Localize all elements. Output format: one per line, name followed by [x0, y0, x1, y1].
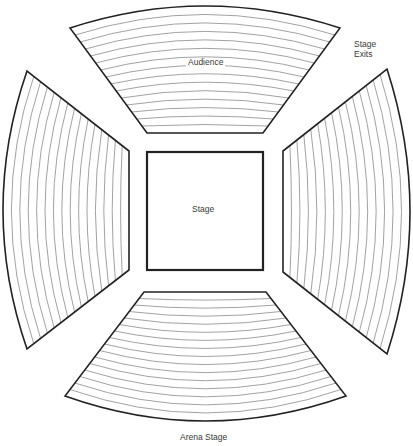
seat-row: [104, 135, 109, 286]
seat-row: [137, 116, 274, 119]
seat-row: [116, 82, 294, 91]
seat-row: [318, 124, 326, 300]
seat-row: [121, 91, 288, 98]
seat-row: [95, 130, 101, 291]
seating-left: [3, 71, 129, 349]
seat-row: [105, 344, 307, 357]
stage-exits-label: Stage Exits: [354, 40, 376, 60]
seat-row: [142, 125, 268, 126]
seat-row: [297, 140, 300, 283]
seat-row: [121, 146, 123, 276]
seat-row: [380, 74, 401, 348]
seat-row: [126, 99, 283, 105]
seat-row: [109, 338, 301, 349]
seat-row: [70, 114, 81, 307]
seat-row: [20, 82, 41, 339]
section-outline: [3, 71, 129, 349]
seat-row: [345, 102, 359, 321]
seat-row: [290, 146, 292, 278]
audience-label: Audience: [186, 58, 225, 68]
stage-exits-line2: Exits: [354, 50, 376, 60]
seat-row: [129, 312, 281, 317]
section-outline: [283, 69, 410, 354]
seat-row: [119, 325, 291, 333]
seat-row: [124, 318, 286, 324]
seat-row: [53, 103, 67, 317]
seat-row: [366, 85, 384, 337]
seating-bottom: [65, 292, 346, 421]
seat-row: [87, 124, 95, 296]
seat-row: [311, 129, 317, 294]
seat-row: [90, 364, 321, 381]
diagram-caption: Arena Stage: [180, 433, 227, 443]
seat-row: [112, 140, 115, 280]
seat-row: [338, 107, 350, 315]
seat-row: [28, 87, 47, 333]
seat-row: [132, 108, 279, 112]
seating-right: [283, 69, 410, 354]
seat-row: [80, 23, 329, 42]
seat-row: [62, 108, 75, 312]
seat-row: [304, 135, 309, 289]
seat-row: [134, 305, 276, 308]
stage-label: Stage: [192, 205, 214, 215]
seat-row: [80, 377, 331, 397]
seat-row: [325, 118, 334, 305]
seat-row: [332, 113, 343, 311]
seat-row: [100, 351, 311, 365]
seat-row: [75, 14, 335, 35]
seat-row: [139, 299, 271, 301]
seat-row: [352, 96, 367, 326]
seating-top: [70, 6, 340, 133]
